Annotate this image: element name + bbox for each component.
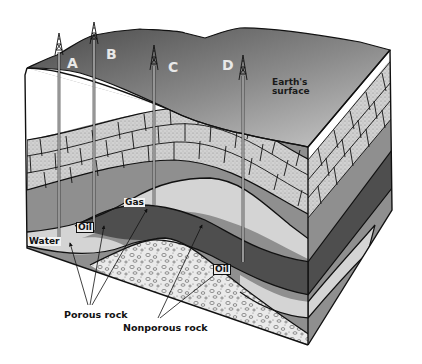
- porous-rock-label: Porous rock: [64, 310, 128, 320]
- well-label-a: A: [67, 56, 78, 70]
- nonporous-rock-label: Nonporous rock: [123, 323, 208, 333]
- oil-label-left: Oil: [76, 222, 94, 233]
- well-label-c: C: [168, 60, 178, 74]
- water-label: Water: [28, 237, 61, 246]
- earth-surface-label: Earth's surface: [272, 78, 310, 96]
- oil-label-right: Oil: [213, 264, 231, 275]
- gas-label: Gas: [124, 198, 145, 207]
- oil-gas-trap-diagram: A B C D Earth's surface Gas Oil Oil Wate…: [0, 0, 422, 364]
- earth-surface-label-line2: surface: [272, 87, 310, 96]
- well-label-b: B: [106, 47, 117, 61]
- well-label-d: D: [222, 58, 234, 72]
